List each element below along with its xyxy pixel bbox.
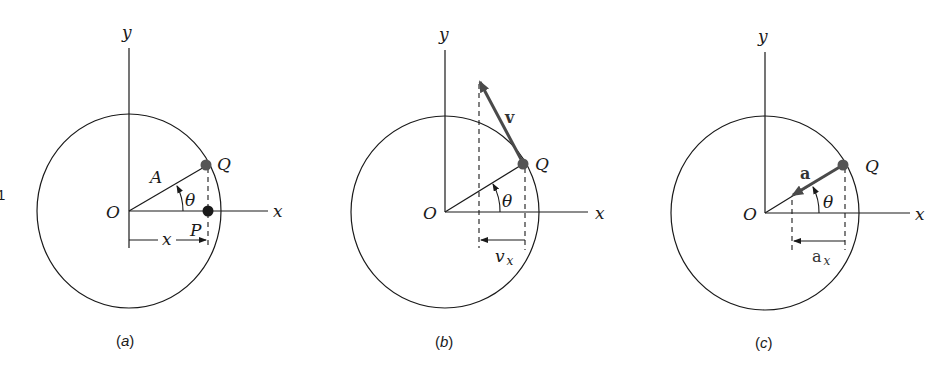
- x-axis-label: x: [915, 204, 925, 224]
- point-q-dot: [518, 159, 529, 170]
- angle-arc-icon: [493, 184, 500, 212]
- origin-label: O: [106, 202, 120, 222]
- caption-a: (a): [116, 332, 134, 349]
- point-q-dot: [838, 160, 849, 171]
- panel-b: y x O Q θ v vx (b): [351, 24, 605, 350]
- y-axis-label: y: [438, 24, 449, 44]
- velocity-component-label: vx: [495, 246, 514, 268]
- reference-circle-figure: 1 y x O Q P A θ x (a) y x O Q: [0, 0, 947, 369]
- point-p-dot: [203, 206, 214, 217]
- caption-b: (b): [435, 333, 453, 350]
- edge-fragment-text: 1: [0, 186, 5, 203]
- acceleration-vector-label: a: [800, 164, 810, 183]
- angle-label: θ: [823, 192, 833, 212]
- x-axis-label: x: [595, 203, 605, 223]
- point-q-dot: [201, 160, 212, 171]
- y-axis-label: y: [757, 26, 768, 46]
- y-axis-label: y: [121, 22, 132, 42]
- origin-label: O: [743, 204, 757, 224]
- velocity-vector-label: v: [504, 108, 515, 127]
- angle-arc-icon: [177, 186, 183, 211]
- velocity-vector-arrow: [480, 82, 523, 163]
- acceleration-component-label: ax: [812, 247, 831, 268]
- point-q-label: Q: [865, 156, 879, 176]
- panel-a: y x O Q P A θ x (a): [37, 22, 283, 349]
- point-p-label: P: [189, 220, 202, 240]
- panel-c: y x O Q θ a ax (c): [671, 26, 925, 351]
- origin-label: O: [423, 203, 437, 223]
- x-axis-label: x: [273, 201, 283, 221]
- caption-c: (c): [755, 334, 773, 351]
- point-q-label: Q: [217, 154, 231, 174]
- angle-label: θ: [502, 191, 512, 211]
- displacement-label: x: [162, 229, 172, 249]
- angle-arc-icon: [813, 187, 819, 213]
- angle-label: θ: [185, 190, 195, 210]
- radius-label: A: [148, 167, 162, 187]
- point-q-label: Q: [535, 154, 549, 174]
